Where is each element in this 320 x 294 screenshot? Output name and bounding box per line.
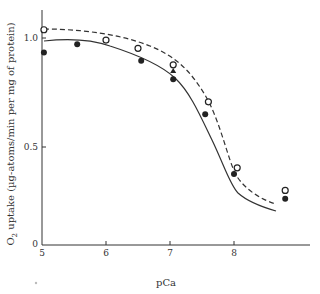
- chart: 1.0 0.5 0 5 6 7 8 pCa O2 uptake (µg-atom…: [0, 0, 320, 294]
- x-tick-label: 7: [167, 248, 173, 258]
- filled-circles-point: [74, 41, 80, 47]
- y-tick-label: 0: [32, 239, 38, 249]
- x-tick-label: 6: [103, 248, 109, 258]
- solid-curve: [44, 39, 276, 211]
- open-circles-point: [103, 37, 109, 43]
- filled-circles-point: [138, 58, 144, 64]
- filled-circles-point: [41, 49, 47, 55]
- triangle-point: [170, 68, 176, 73]
- open-circles-point: [41, 27, 47, 33]
- open-circles-point: [205, 99, 211, 105]
- dashed-curve: [44, 29, 276, 204]
- open-circles-point: [170, 62, 176, 68]
- speck: [35, 282, 37, 284]
- y-tick-label: 1.0: [24, 33, 39, 43]
- open-circles-point: [234, 165, 240, 171]
- x-tick-label: 5: [39, 248, 45, 258]
- x-axis-label: pCa: [156, 277, 176, 288]
- filled-circles-point: [202, 111, 208, 117]
- y-axis-label: O2 uptake (µg-atoms/min per mg of protei…: [5, 22, 19, 245]
- x-tick-label: 8: [231, 248, 237, 258]
- open-circles-point: [135, 45, 141, 51]
- filled-circles-point: [170, 76, 176, 82]
- filled-circles-point: [282, 196, 288, 202]
- y-tick-label: 0.5: [24, 142, 39, 152]
- open-circles-point: [282, 187, 288, 193]
- filled-circles-point: [231, 171, 237, 177]
